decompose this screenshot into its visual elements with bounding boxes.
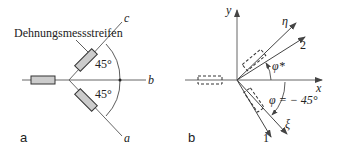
axis-eta: η xyxy=(282,14,288,28)
axis-a: a xyxy=(124,131,130,145)
axis-b: b xyxy=(148,73,154,87)
strain-gauge-diagram: Dehnungsmessstreifen 45° 45° c b a a y x… xyxy=(0,0,338,157)
panel-b-label: b xyxy=(188,130,195,145)
gauge-label: Dehnungsmessstreifen xyxy=(14,26,123,40)
panel-a: Dehnungsmessstreifen 45° 45° c b a a xyxy=(14,11,154,145)
angle-upper: 45° xyxy=(95,57,112,71)
axis-c: c xyxy=(124,11,130,25)
axis-1: 1 xyxy=(263,131,269,145)
axis-y: y xyxy=(225,3,232,17)
angle-phi-star: φ* xyxy=(272,59,285,73)
panel-b: y x η 2 φ* φ = − 45° ξ 1 b xyxy=(185,3,322,145)
panel-a-label: a xyxy=(20,130,28,145)
angle-lower: 45° xyxy=(95,87,112,101)
axis-xi: ξ xyxy=(285,117,291,131)
angle-phi: φ = − 45° xyxy=(269,93,318,107)
axis-2: 2 xyxy=(300,38,306,52)
